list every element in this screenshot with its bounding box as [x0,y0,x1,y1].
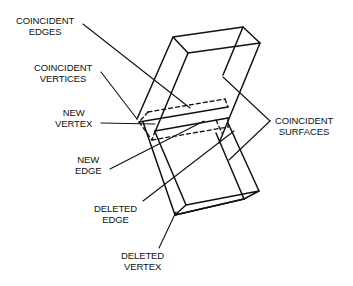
label-coincident-edges: COINCIDENT EDGES [16,15,74,37]
label-line: EDGES [16,26,74,37]
label-line: VERTEX [55,118,92,129]
label-line: SURFACES [275,126,333,137]
label-line: VERTICES [34,73,92,84]
label-line: NEW [75,154,102,165]
label-line: NEW [55,107,92,118]
label-line: DELETED [94,203,137,214]
label-deleted-vertex: DELETED VERTEX [121,250,164,272]
label-line: EDGE [75,165,102,176]
label-coincident-surfaces: COINCIDENT SURFACES [275,115,333,137]
label-deleted-edge: DELETED EDGE [94,203,137,225]
label-new-edge: NEW EDGE [75,154,102,176]
label-line: VERTEX [121,261,164,272]
solids-drawing [0,0,353,286]
label-line: COINCIDENT [34,62,92,73]
slab [139,99,228,140]
label-line: COINCIDENT [275,115,333,126]
label-coincident-vertices: COINCIDENT VERTICES [34,62,92,84]
tall-box [137,27,260,215]
label-line: EDGE [94,214,137,225]
label-line: DELETED [121,250,164,261]
diagram-canvas: COINCIDENT EDGES COINCIDENT VERTICES NEW… [0,0,353,286]
label-new-vertex: NEW VERTEX [55,107,92,129]
label-line: COINCIDENT [16,15,74,26]
